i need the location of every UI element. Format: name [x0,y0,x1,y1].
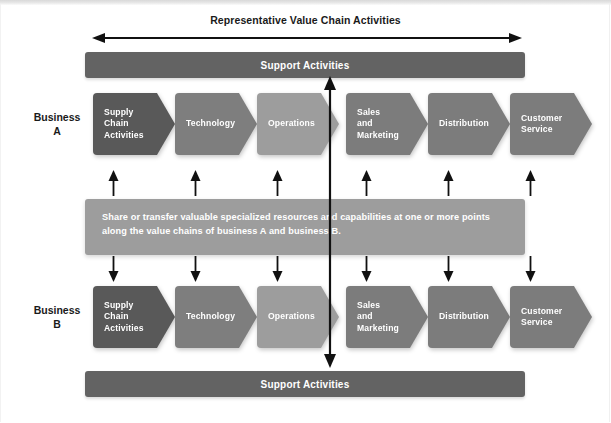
business-a-label-line2: A [22,124,92,138]
activity-label-line: Marketing [357,323,399,335]
business-a-value-chain: SupplyChainActivitiesTechnologyOperation… [93,93,593,155]
activity-label-line: and [357,118,399,130]
value-chain-activity-sales-and-marketing[interactable]: SalesandMarketing [346,286,428,348]
activity-label-line: Service [521,124,562,136]
business-b-value-chain: SupplyChainActivitiesTechnologyOperation… [93,286,593,348]
value-chain-activity-customer-service[interactable]: CustomerService [510,93,592,155]
activity-label: SalesandMarketing [346,107,419,142]
connector-arrow-up-icon [361,170,372,196]
shared-resources-block: Share or transfer valuable specialized r… [85,199,525,255]
activity-label-line: Distribution [439,311,489,323]
activity-label-line: Supply [104,107,144,119]
activity-label-line: Chain [104,311,144,323]
business-a-label: Business A [22,110,92,138]
value-chain-activity-distribution[interactable]: Distribution [428,286,510,348]
activity-label: Technology [175,311,255,323]
business-b-label: Business B [22,303,92,331]
activity-label-line: Customer [521,306,562,318]
business-b-label-line1: Business [22,303,92,317]
activity-label-line: Activities [104,323,144,335]
activity-label-line: Operations [268,118,315,130]
value-chain-activity-sales-and-marketing[interactable]: SalesandMarketing [346,93,428,155]
value-chain-activity-supply-chain-activities[interactable]: SupplyChainActivities [93,93,175,155]
connector-arrow-up-icon [443,170,454,196]
value-chain-activity-customer-service[interactable]: CustomerService [510,286,592,348]
vertical-linkage-arrow [322,76,338,368]
connector-arrow-down-icon [525,256,536,282]
page-scan-band [0,0,611,5]
activity-label: SupplyChainActivities [93,107,164,142]
activity-label-line: Activities [104,130,144,142]
activity-label: CustomerService [510,113,582,136]
support-activities-bar-top: Support Activities [85,52,525,78]
page-title: Representative Value Chain Activities [0,14,611,26]
business-b-label-line2: B [22,317,92,331]
support-activities-label-top: Support Activities [261,60,350,71]
activity-label-line: Customer [521,113,562,125]
activity-label-line: Technology [186,311,235,323]
activity-label: CustomerService [510,306,582,329]
connector-arrow-down-icon [190,256,201,282]
activity-label-line: Supply [104,300,144,312]
activity-label-line: Chain [104,118,144,130]
activity-label-line: and [357,311,399,323]
support-activities-bar-bottom: Support Activities [85,371,525,397]
connector-arrow-up-icon [525,170,536,196]
activity-label-line: Sales [357,107,399,119]
activity-label: Distribution [428,118,509,130]
connector-arrow-up-icon [108,170,119,196]
value-chain-activity-supply-chain-activities[interactable]: SupplyChainActivities [93,286,175,348]
diagram-canvas: Representative Value Chain Activities Su… [0,0,611,423]
connector-arrow-up-icon [272,170,283,196]
connector-arrow-down-icon [361,256,372,282]
connector-arrow-down-icon [108,256,119,282]
activity-label-line: Technology [186,118,235,130]
connector-arrow-down-icon [443,256,454,282]
business-a-label-line1: Business [22,110,92,124]
value-chain-activity-technology[interactable]: Technology [175,286,257,348]
activity-label: Technology [175,118,255,130]
activity-label-line: Operations [268,311,315,323]
value-chain-span-arrow [92,32,522,44]
activity-label-line: Sales [357,300,399,312]
activity-label-line: Marketing [357,130,399,142]
shared-resources-text: Share or transfer valuable specialized r… [102,210,509,238]
value-chain-activity-distribution[interactable]: Distribution [428,93,510,155]
support-activities-label-bottom: Support Activities [261,379,350,390]
activity-label: SalesandMarketing [346,300,419,335]
activity-label-line: Distribution [439,118,489,130]
value-chain-activity-technology[interactable]: Technology [175,93,257,155]
activity-label: Distribution [428,311,509,323]
connector-arrow-up-icon [190,170,201,196]
activity-label: SupplyChainActivities [93,300,164,335]
connector-arrow-down-icon [272,256,283,282]
activity-label-line: Service [521,317,562,329]
